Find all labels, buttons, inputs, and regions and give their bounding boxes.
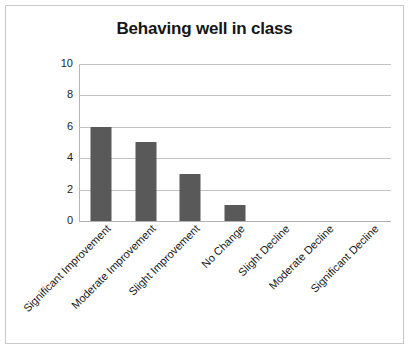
y-tick-label-10: 10 xyxy=(35,58,73,69)
chart-card: Behaving well in class 0246810 Significa… xyxy=(5,5,404,344)
y-tick-label-0: 0 xyxy=(35,215,73,226)
y-tick-label-6: 6 xyxy=(35,121,73,132)
x-axis-label: No Change xyxy=(200,223,247,270)
plot-area xyxy=(79,64,391,221)
bar[interactable] xyxy=(224,205,245,221)
bar-series xyxy=(79,64,391,221)
gridline-0 xyxy=(79,221,391,222)
y-tick-label-2: 2 xyxy=(35,184,73,195)
y-tick-label-8: 8 xyxy=(35,89,73,100)
bar[interactable] xyxy=(135,142,156,221)
bar[interactable] xyxy=(180,174,201,221)
x-axis-label: Significant Improvement xyxy=(22,223,113,314)
bar-slot xyxy=(168,64,213,221)
bar-slot xyxy=(302,64,347,221)
bar-slot xyxy=(346,64,391,221)
y-tick-label-4: 4 xyxy=(35,152,73,163)
x-axis-category-labels: Significant ImprovementModerate Improvem… xyxy=(79,223,391,343)
bar-slot xyxy=(257,64,302,221)
bar-slot xyxy=(213,64,258,221)
x-axis-label: Moderate Improvement xyxy=(70,223,158,311)
bar-slot xyxy=(79,64,124,221)
bar[interactable] xyxy=(91,127,112,221)
bar-slot xyxy=(124,64,169,221)
chart-title: Behaving well in class xyxy=(6,19,403,39)
y-axis-tick-labels: 0246810 xyxy=(31,64,73,221)
